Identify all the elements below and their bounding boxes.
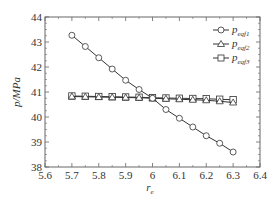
svg-text:re: re [146, 181, 153, 196]
y-tick-label: 41 [31, 86, 42, 98]
y-tick-label: 38 [31, 161, 43, 173]
circle-marker-icon [136, 87, 142, 93]
svg-text:peqf3: peqf3 [231, 51, 250, 66]
legend-item-eqf3: peqf3 [213, 51, 250, 66]
x-tick-label: 5.9 [119, 169, 133, 181]
series-layer [68, 32, 236, 155]
square-marker-icon [218, 55, 224, 61]
circle-marker-icon [150, 95, 156, 101]
series-p_eqf1 [69, 32, 236, 155]
circle-marker-icon [230, 149, 236, 155]
y-tick-label: 39 [31, 136, 43, 148]
circle-marker-icon [217, 140, 223, 146]
circle-marker-icon [82, 44, 88, 50]
legend-item-eqf2: peqf2 [213, 37, 250, 52]
circle-marker-icon [123, 77, 129, 83]
legend: peqf1 peqf2 peqf3 [213, 23, 250, 66]
circle-marker-icon [203, 133, 209, 139]
x-tick-label: 5.8 [92, 169, 106, 181]
x-tick-label: 6.1 [173, 169, 187, 181]
y-tick-label: 44 [31, 11, 43, 23]
y-tick-label: 40 [31, 111, 43, 123]
x-axis-label-sub: e [151, 188, 154, 196]
y-axis-label: p/MPa [10, 77, 22, 108]
circle-marker-icon [218, 27, 224, 33]
circle-marker-icon [190, 124, 196, 130]
x-tick-label: 6.4 [253, 169, 267, 181]
legend-item-eqf1: peqf1 [213, 23, 250, 38]
y-tick-label: 42 [31, 61, 42, 73]
circle-marker-icon [109, 66, 115, 72]
svg-text:peqf2: peqf2 [231, 37, 250, 52]
x-axis-label: re [146, 181, 153, 196]
y-tick-label: 43 [31, 36, 43, 48]
circle-marker-icon [96, 55, 102, 61]
y-axis-ticks: 38394041424344 [31, 11, 260, 173]
svg-text:peqf1: peqf1 [231, 23, 250, 38]
legend-label-sub: eqf2 [238, 44, 251, 52]
x-tick-label: 6.3 [226, 169, 240, 181]
legend-label-sub: eqf3 [238, 58, 251, 66]
line-chart: 5.65.75.85.966.16.26.36.4 38394041424344… [0, 0, 279, 203]
x-tick-label: 5.7 [65, 169, 79, 181]
legend-label-sub: eqf1 [238, 30, 250, 38]
circle-marker-icon [176, 115, 182, 121]
circle-marker-icon [69, 32, 75, 38]
circle-marker-icon [163, 107, 169, 113]
x-tick-label: 6.2 [199, 169, 213, 181]
x-tick-label: 6 [150, 169, 156, 181]
